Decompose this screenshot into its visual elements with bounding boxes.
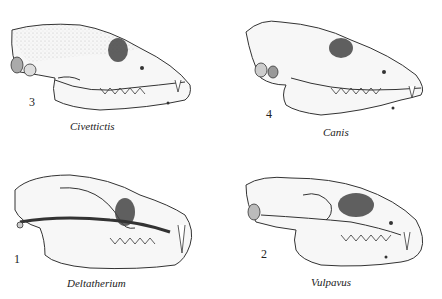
panel-number: 1 — [14, 252, 20, 267]
panel-deltatherium: 1 Deltatherium — [0, 150, 221, 299]
genus-label: Vulpavus — [311, 276, 351, 288]
panel-civettictis: 3 Civettictis — [0, 0, 221, 150]
panel-number: 2 — [261, 247, 267, 262]
genus-label: Civettictis — [70, 120, 115, 132]
panel-vulpavus: 2 Vulpavus — [221, 150, 442, 299]
panel-number: 4 — [266, 107, 272, 122]
genus-label: Canis — [323, 126, 349, 138]
panel-canis: 4 Canis — [221, 0, 442, 150]
genus-label: Deltatherium — [67, 277, 126, 289]
panel-number: 3 — [29, 95, 35, 110]
